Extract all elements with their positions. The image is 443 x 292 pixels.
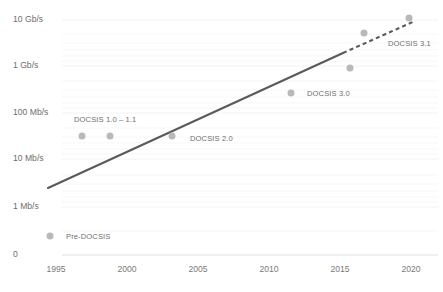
y-axis-label-10mbs: 10 Mb/s [13,153,59,163]
data-point-docsis-3-1[interactable] [361,30,368,37]
y-axis-label-10gbs: 10 Gb/s [13,14,59,24]
data-point-docsis-3-0-mid[interactable] [347,65,354,72]
x-axis-label-2000: 2000 [117,264,136,274]
trend-line-dashed [343,21,415,53]
annotation-docsis-1-0-1-1: DOCSIS 1.0 – 1.1 [74,115,136,124]
annotation-docsis-3-1: DOCSIS 3.1 [388,39,431,48]
gridlines [62,20,438,231]
y-axis-label-1mbs: 1 Mb/s [13,201,59,211]
y-axis-label-zero: 0 [13,249,59,259]
data-point-docsis-3-1-full[interactable] [406,15,413,22]
chart-canvas [0,0,443,292]
annotation-docsis-2-0: DOCSIS 2.0 [190,134,233,143]
x-axis-label-2010: 2010 [259,264,278,274]
annotation-docsis-3-0: DOCSIS 3.0 [307,89,350,98]
data-point-pre-docsis[interactable] [47,233,54,240]
y-axis-label-1gbs: 1 Gb/s [13,60,59,70]
x-axis-label-1995: 1995 [46,264,65,274]
data-point-docsis-3-0[interactable] [288,90,295,97]
y-axis-label-100mbs: 100 Mb/s [13,107,59,117]
data-point-docsis-2-0[interactable] [169,133,176,140]
annotation-pre-docsis: Pre-DOCSIS [66,232,110,241]
chart-container: 10 Gb/s 1 Gb/s 100 Mb/s 10 Mb/s 1 Mb/s 0… [0,0,443,292]
data-point-docsis-1-1[interactable] [107,133,114,140]
x-axis-label-2015: 2015 [330,264,349,274]
data-point-docsis-1-0[interactable] [79,133,86,140]
x-axis-label-2020: 2020 [401,264,420,274]
x-axis-label-2005: 2005 [188,264,207,274]
